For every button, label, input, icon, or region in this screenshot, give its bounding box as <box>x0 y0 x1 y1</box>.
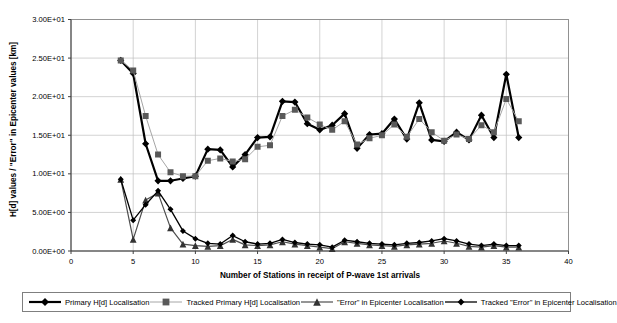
y-tick-label: 5.00E+00 <box>32 208 65 217</box>
x-tick-label: 10 <box>191 257 199 266</box>
legend-item-error-epicenter: "Error" in Epicenter Localisation <box>300 297 444 307</box>
legend-triangle-icon <box>300 297 334 307</box>
y-tick-label: 1.50E+01 <box>32 131 65 140</box>
legend-square-icon <box>149 297 183 307</box>
legend-diamond-icon <box>444 297 478 307</box>
x-tick-label: 30 <box>440 257 448 266</box>
legend-diamond-icon <box>28 297 62 307</box>
legend-label: Tracked "Error" in Epicenter Localisatio… <box>481 298 617 307</box>
y-tick-label: 2.00E+01 <box>32 92 65 101</box>
x-tick-label: 20 <box>316 257 324 266</box>
legend-label: Tracked Primary H[d] Localisation <box>186 298 300 307</box>
x-tick-label: 40 <box>564 257 572 266</box>
x-tick-label: 5 <box>131 257 135 266</box>
y-tick-label: 3.00E+01 <box>32 15 65 24</box>
legend-item-tracked-primary-hd: Tracked Primary H[d] Localisation <box>149 297 300 307</box>
legend-marker-sample <box>457 299 464 306</box>
legend-label: Primary H[d] Localisation <box>65 298 149 307</box>
y-axis-title: H[d] values / "Error" in Epicenter value… <box>9 20 18 240</box>
x-axis-title: Number of Stations in receipt of P-wave … <box>71 271 569 280</box>
legend-item-tracked-error-epicenter: Tracked "Error" in Epicenter Localisatio… <box>444 297 617 307</box>
y-tick-label: 1.00E+01 <box>32 169 65 178</box>
y-tick-label: 2.50E+01 <box>32 54 65 63</box>
legend-marker-sample <box>41 298 49 306</box>
legend: Primary H[d] Localisation Tracked Primar… <box>22 292 571 312</box>
legend-marker-sample <box>163 299 170 306</box>
y-tick-label: 0.00E+00 <box>32 247 65 256</box>
x-tick-label: 15 <box>253 257 261 266</box>
x-tick-label: 35 <box>502 257 510 266</box>
legend-label: "Error" in Epicenter Localisation <box>337 298 444 307</box>
legend-item-primary-hd: Primary H[d] Localisation <box>28 297 149 307</box>
plot-area: 0.00E+005.00E+001.00E+011.50E+012.00E+01… <box>0 0 592 290</box>
x-tick-label: 0 <box>69 257 73 266</box>
x-tick-label: 25 <box>378 257 386 266</box>
